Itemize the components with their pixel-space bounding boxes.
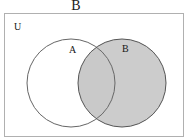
universe-label: U [14, 22, 21, 32]
venn-diagram-graphic [0, 0, 190, 140]
venn-diagram-figure: B U A B [0, 0, 190, 140]
set-b-label: B [122, 44, 129, 54]
set-a-label: A [69, 45, 76, 55]
